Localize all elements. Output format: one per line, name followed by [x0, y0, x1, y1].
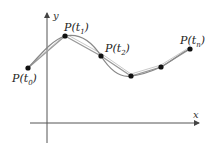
point-p0	[25, 65, 30, 70]
point-p2	[98, 53, 103, 58]
label-p1: P(t1)	[64, 22, 89, 36]
label-pn: P(tn)	[180, 35, 205, 49]
point-p4	[158, 64, 163, 69]
parametric-curve-diagram: y x P(t0) P(t1) P(t2) P(tn)	[0, 0, 209, 153]
point-p3	[128, 73, 133, 78]
y-axis-label: y	[53, 11, 59, 21]
x-axis-label: x	[193, 110, 199, 120]
label-p2: P(t2)	[105, 43, 130, 57]
label-p0: P(t0)	[12, 73, 37, 87]
